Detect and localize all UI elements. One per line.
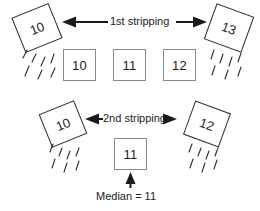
- median-caption: Median = 11: [96, 191, 156, 202]
- median-pointer-arrow: [0, 0, 260, 211]
- stripping-diagram: 10 13: [0, 0, 260, 211]
